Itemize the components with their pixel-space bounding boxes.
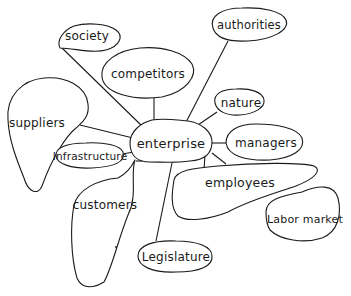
node-competitors-label: competitors — [111, 67, 185, 81]
node-society-label: society — [65, 29, 109, 43]
node-managers-label: managers — [235, 136, 297, 150]
node-infrastructure-label: Infrastructure — [53, 150, 128, 162]
node-customers-label: customers — [73, 198, 138, 212]
link-legislature — [156, 163, 172, 241]
link-authorities — [183, 41, 228, 128]
node-authorities-label: authorities — [217, 18, 281, 32]
link-employees-b — [212, 153, 226, 164]
link-suppliers — [80, 125, 133, 138]
node-legislature-label: Legislature — [142, 250, 210, 264]
node-labor-market-label: Labor market — [267, 213, 343, 226]
node-nature-label: nature — [221, 96, 262, 110]
node-suppliers-bubble — [8, 78, 88, 192]
node-employees-label: employees — [205, 175, 275, 190]
node-suppliers-label: suppliers — [9, 116, 65, 130]
node-enterprise-label: enterprise — [137, 136, 206, 151]
node-customers-bubble — [72, 160, 135, 287]
stray-mark — [115, 246, 117, 248]
